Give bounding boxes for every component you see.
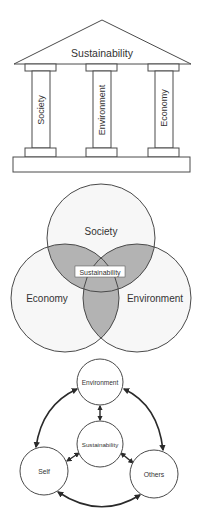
- sustainability-figure: Sustainability Society Environment Econo…: [0, 0, 200, 524]
- edge-self-environment: [36, 389, 77, 447]
- venn-center-label: Sustainability: [79, 269, 121, 277]
- venn-label-economy: Economy: [26, 293, 68, 304]
- pillar-environment: Environment: [86, 64, 117, 157]
- pillar-label: Society: [36, 95, 46, 125]
- edge-sustainability-others: [121, 453, 133, 463]
- node-others: Others: [130, 450, 178, 498]
- node-label: Environment: [82, 379, 119, 386]
- node-label: Sustainability: [82, 441, 119, 448]
- edge-self-others: [58, 492, 140, 507]
- edge-sustainability-self: [67, 453, 79, 461]
- network-diagram: Environment Sustainability Self Others: [20, 359, 178, 507]
- venn-label-environment: Environment: [127, 293, 183, 304]
- venn-diagram: Society Economy Environment Sustainabili…: [11, 184, 191, 352]
- venn-label-society: Society: [85, 226, 118, 237]
- temple-base: [13, 157, 190, 172]
- temple-roof-label: Sustainability: [71, 47, 134, 59]
- node-label: Self: [38, 468, 50, 475]
- node-sustainability: Sustainability: [77, 421, 123, 467]
- temple-diagram: Sustainability Society Environment Econo…: [13, 20, 191, 172]
- node-self: Self: [20, 447, 68, 495]
- node-label: Others: [144, 471, 165, 478]
- pillar-label: Economy: [159, 89, 169, 127]
- node-environment: Environment: [77, 359, 123, 405]
- edge-environment-others: [124, 389, 163, 450]
- pillar-economy: Economy: [148, 64, 179, 157]
- pillar-society: Society: [25, 64, 56, 157]
- pillar-label: Environment: [97, 84, 107, 135]
